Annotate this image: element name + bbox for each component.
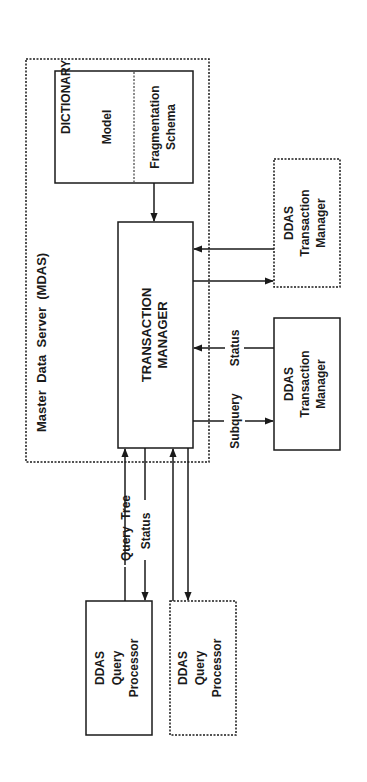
ddas-tm-lower-l1: DDAS: [282, 367, 296, 401]
architecture-diagram: Master Data Server (MDAS) DICTIONARY Mod…: [0, 0, 367, 782]
query-tree-label: Query Tree: [119, 495, 133, 561]
ddas-tm-lower-l3: Manager: [314, 359, 328, 409]
ddas-tm-lower-l2: Transaction: [298, 350, 312, 417]
qp-right-l3: Processor: [210, 638, 224, 697]
dictionary-fragmentation: Fragmentation: [148, 85, 162, 168]
ddas-tm-upper-l1: DDAS: [282, 206, 296, 240]
subquery-label: Subquery: [228, 393, 242, 449]
status-tm-label: Status: [228, 329, 242, 366]
qp-left-l1: DDAS: [93, 651, 107, 685]
dictionary-schema: Schema: [164, 104, 178, 150]
qp-left-l2: Query: [110, 650, 124, 685]
tm-label-line1: TRANSACTION: [139, 288, 154, 383]
dictionary-model: Model: [100, 110, 114, 145]
tm-label-line2: MANAGER: [155, 301, 170, 369]
qp-left-l3: Processor: [127, 638, 141, 697]
ddas-tm-upper-l2: Transaction: [298, 189, 312, 256]
dictionary-title: DICTIONARY: [59, 60, 73, 134]
qp-right-l1: DDAS: [176, 651, 190, 685]
ddas-tm-upper-l3: Manager: [314, 198, 328, 248]
qp-right-l2: Query: [193, 650, 207, 685]
status-qp-label: Status: [139, 512, 153, 549]
mdas-title: Master Data Server (MDAS): [34, 253, 49, 432]
